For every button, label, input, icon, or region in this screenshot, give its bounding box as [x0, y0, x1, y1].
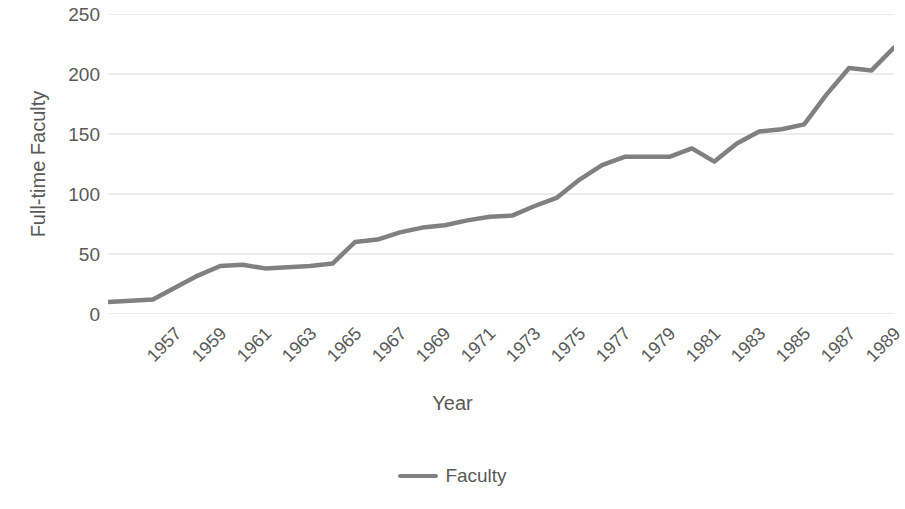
x-tick-label: 1965 [323, 324, 364, 365]
plot-area [108, 14, 894, 314]
gridlines [108, 14, 894, 314]
x-axis-title: Year [0, 392, 905, 415]
x-tick-label: 1987 [817, 324, 858, 365]
x-tick-label: 1989 [862, 324, 903, 365]
x-tick-label: 1969 [413, 324, 454, 365]
x-tick-label: 1957 [144, 324, 185, 365]
x-tick-label: 1971 [458, 324, 499, 365]
x-axis-tick-labels: 1957195919611963196519671969197119731975… [108, 314, 894, 394]
series-line-faculty [108, 48, 894, 302]
chart-container: Full-time Faculty 250200150100500 195719… [0, 0, 905, 509]
legend-label: Faculty [445, 466, 506, 485]
y-axis-tick-labels: 250200150100500 [44, 0, 100, 509]
y-tick-label: 200 [48, 65, 100, 84]
chart-legend: Faculty [0, 466, 905, 485]
x-tick-label: 1963 [278, 324, 319, 365]
y-tick-label: 250 [48, 5, 100, 24]
x-tick-label: 1975 [548, 324, 589, 365]
y-tick-label: 100 [48, 185, 100, 204]
chart-title-clipped [0, 0, 905, 6]
x-tick-label: 1973 [503, 324, 544, 365]
plot-svg [108, 14, 894, 314]
x-tick-label: 1983 [728, 324, 769, 365]
legend-item[interactable]: Faculty [398, 466, 506, 485]
x-tick-label: 1985 [773, 324, 814, 365]
x-tick-label: 1959 [189, 324, 230, 365]
x-tick-label: 1981 [683, 324, 724, 365]
y-tick-label: 150 [48, 125, 100, 144]
y-tick-label: 50 [48, 245, 100, 264]
y-tick-label: 0 [48, 305, 100, 324]
x-tick-label: 1961 [234, 324, 275, 365]
x-tick-label: 1979 [638, 324, 679, 365]
legend-line-swatch [398, 474, 438, 478]
x-tick-label: 1977 [593, 324, 634, 365]
x-tick-label: 1967 [368, 324, 409, 365]
